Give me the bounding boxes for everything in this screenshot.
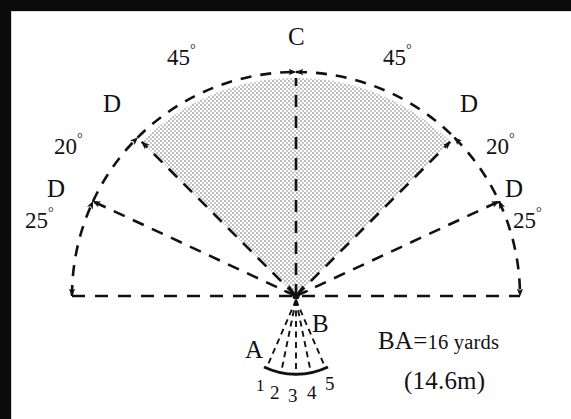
- arc-span-left-20: [93, 138, 138, 202]
- label-angle-left-25: 25°: [25, 207, 54, 232]
- fan-ray-4: [296, 300, 311, 372]
- label-point-b: B: [312, 311, 329, 336]
- diagram-page: C 45° 45° D D 20° 20° D D 25° 25° B A 1 …: [0, 0, 571, 419]
- note-distance-metres: (14.6m): [404, 368, 485, 393]
- label-fan-number-5: 5: [325, 374, 335, 393]
- fan-ray-2: [281, 300, 296, 372]
- label-angle-left-20: 20°: [54, 133, 83, 158]
- label-point-d-right-inner: D: [505, 176, 523, 201]
- label-fan-number-1: 1: [256, 377, 265, 394]
- label-angle-right-20: 20°: [486, 133, 515, 158]
- angle-diagram-svg: [0, 0, 571, 419]
- label-angle-right-25: 25°: [513, 207, 542, 232]
- label-fan-number-2: 2: [270, 383, 280, 402]
- label-point-c: C: [288, 24, 305, 49]
- label-point-d-left-inner: D: [47, 176, 65, 201]
- label-fan-number-4: 4: [307, 383, 317, 402]
- label-angle-left-45: 45°: [167, 44, 196, 69]
- label-point-d-right-outer: D: [460, 91, 478, 116]
- label-angle-right-45: 45°: [383, 44, 412, 69]
- label-fan-number-3: 3: [288, 386, 298, 405]
- arc-span-left-25: [72, 201, 93, 296]
- label-point-a: A: [245, 337, 263, 362]
- note-distance-yards: BA=16 yards: [378, 328, 499, 353]
- fan-ray-1: [267, 300, 297, 368]
- label-point-d-left-outer: D: [103, 91, 121, 116]
